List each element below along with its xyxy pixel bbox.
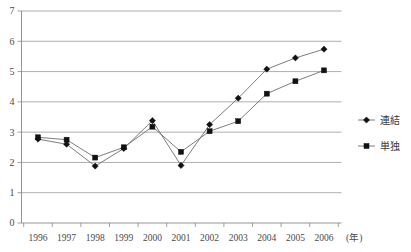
x-axis-tick-label: 2002 [200, 233, 219, 243]
data-point-diamond [321, 46, 327, 52]
chart-legend: 連結単独 [358, 114, 400, 152]
y-axis-labels-group: 01234567 [10, 5, 15, 228]
x-axis-tick-label: 1996 [29, 233, 48, 243]
y-axis-tick-label: 5 [10, 66, 15, 77]
data-point-square [36, 135, 41, 140]
x-axis-unit-label: (年) [346, 232, 362, 244]
y-axis-tick-label: 0 [10, 217, 15, 228]
x-axis-tick-label: 2005 [286, 233, 305, 243]
x-axis-tick-label: 1999 [114, 233, 133, 243]
line-chart: 01234567 1996199719981999200020012002200… [0, 0, 411, 252]
x-axis-tick-label: 2001 [172, 233, 191, 243]
y-axis-tick-label: 7 [10, 5, 15, 16]
x-axis-ticks-group [24, 223, 339, 227]
x-axis-tick-label: 2000 [143, 233, 162, 243]
legend-marker-diamond [363, 117, 369, 123]
data-point-square [322, 68, 327, 73]
x-axis-tick-label: 2006 [315, 233, 334, 243]
data-point-diamond [292, 55, 298, 61]
data-point-square [264, 91, 269, 96]
y-axis-tick-label: 6 [10, 36, 15, 47]
series-lines-group [38, 49, 324, 166]
data-point-square [207, 129, 212, 134]
legend-label-1: 連結 [380, 114, 400, 126]
x-axis-unit-label: (年) [346, 232, 362, 244]
x-axis-tick-label: 2003 [229, 233, 248, 243]
data-point-square [293, 79, 298, 84]
x-axis-labels-group: 1996199719981999200020012002200320042005… [29, 233, 334, 243]
y-axis-tick-label: 1 [10, 187, 15, 198]
data-point-square [236, 119, 241, 124]
data-point-square [121, 145, 126, 150]
x-axis-tick-label: 1998 [86, 233, 105, 243]
data-point-square [179, 149, 184, 154]
gridlines-group [22, 11, 342, 223]
legend-label-2: 単独 [380, 140, 400, 152]
data-point-square [64, 137, 69, 142]
y-axis-tick-label: 4 [10, 96, 15, 107]
chart-container: 01234567 1996199719981999200020012002200… [0, 0, 411, 252]
data-point-square [150, 124, 155, 129]
y-axis-tick-label: 2 [10, 157, 15, 168]
x-axis-tick-label: 1997 [57, 233, 76, 243]
data-point-diamond [178, 162, 184, 168]
legend-marker-square [364, 144, 369, 149]
y-axis-ticks-group [18, 11, 22, 223]
y-axis-tick-label: 3 [10, 127, 15, 138]
x-axis-tick-label: 2004 [257, 233, 276, 243]
series-line-2 [38, 70, 324, 157]
data-point-square [93, 155, 98, 160]
series-markers-group [35, 46, 327, 169]
